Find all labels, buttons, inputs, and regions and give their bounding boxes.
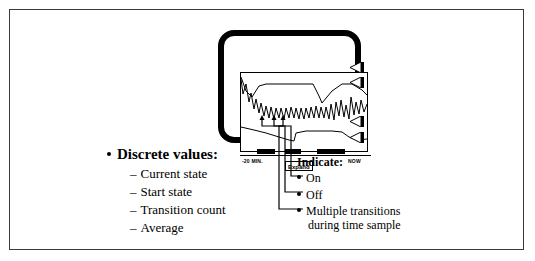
dash-icon: – bbox=[130, 184, 137, 199]
discrete-value-start-state: Start state bbox=[141, 184, 193, 199]
trend-display-device[interactable]: -20 MIN. NOW Expand bbox=[218, 30, 361, 143]
list-item: – Average bbox=[130, 220, 277, 235]
discrete-value-current-state: Current state bbox=[141, 166, 208, 181]
slide-root: -20 MIN. NOW Expand Discrete values: – C… bbox=[0, 0, 535, 261]
waveform-lower-step bbox=[241, 127, 367, 141]
trend-waveform-svg bbox=[241, 73, 367, 151]
bullet-icon bbox=[297, 175, 301, 179]
discrete-values-heading: Discrete values: bbox=[117, 146, 218, 163]
state-bar-on-3[interactable] bbox=[317, 149, 345, 154]
dash-icon: – bbox=[130, 166, 137, 181]
list-item: – Transition count bbox=[130, 202, 277, 217]
dash-icon: – bbox=[130, 220, 137, 235]
list-item: – Start state bbox=[130, 184, 277, 199]
bullet-icon bbox=[107, 152, 111, 156]
cursor-marker-2-icon[interactable] bbox=[350, 77, 364, 88]
list-item: – Current state bbox=[130, 166, 277, 181]
list-item: Multiple transitions during time sample bbox=[297, 205, 432, 232]
trend-screen[interactable] bbox=[240, 72, 368, 152]
indicate-item-multiple-line2: during time sample bbox=[308, 219, 401, 233]
indicate-item-multiple: Multiple transitions during time sample bbox=[306, 205, 401, 232]
cursor-marker-4-icon[interactable] bbox=[350, 132, 364, 143]
discrete-values-block: Discrete values: – Current state – Start… bbox=[107, 146, 277, 235]
cursor-marker-3-icon[interactable] bbox=[350, 116, 364, 127]
waveform-middle-noisy bbox=[241, 79, 367, 120]
indicate-item-off: Off bbox=[306, 189, 322, 203]
list-item: On bbox=[297, 172, 432, 186]
bullet-icon bbox=[297, 192, 301, 196]
bullet-icon bbox=[297, 208, 301, 212]
discrete-value-average: Average bbox=[141, 220, 184, 235]
state-bar-on-2[interactable] bbox=[285, 149, 302, 154]
indicate-heading: Indicate: bbox=[297, 155, 432, 169]
cursor-marker-1-icon[interactable] bbox=[350, 62, 364, 73]
list-item: Off bbox=[297, 189, 432, 203]
indicate-item-on: On bbox=[306, 172, 321, 186]
dash-icon: – bbox=[130, 202, 137, 217]
discrete-values-heading-row: Discrete values: bbox=[107, 146, 277, 163]
discrete-value-transition-count: Transition count bbox=[141, 202, 226, 217]
waveform-upper-trend bbox=[241, 77, 367, 103]
indicate-item-multiple-line1: Multiple transitions bbox=[306, 204, 400, 218]
indicate-block: Indicate: On Off Multiple transitions du… bbox=[297, 155, 432, 232]
